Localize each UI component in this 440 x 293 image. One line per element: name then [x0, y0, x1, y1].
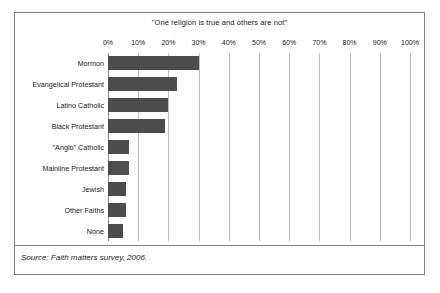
x-axis-tick-labels: 0%10%20%30%40%50%60%70%80%90%100%	[108, 39, 410, 51]
x-tick-label: 80%	[343, 39, 357, 46]
y-tick-label: Mormon	[15, 59, 104, 68]
gridline-40	[229, 53, 230, 241]
bar	[108, 182, 126, 196]
y-tick-label: Other Faiths	[15, 205, 104, 214]
x-tick-label: 70%	[312, 39, 326, 46]
bar	[108, 140, 129, 154]
gridline-70	[319, 53, 320, 241]
x-tick-label: 40%	[222, 39, 236, 46]
bar	[108, 77, 177, 91]
gridline-60	[289, 53, 290, 241]
bar	[108, 56, 199, 70]
y-tick-label: Evangelical Protestant	[15, 80, 104, 89]
x-tick-label: 50%	[252, 39, 266, 46]
bar	[108, 98, 168, 112]
y-tick-label: Jewish	[15, 184, 104, 193]
y-tick-label: Latino Catholic	[15, 101, 104, 110]
bar	[108, 161, 129, 175]
chart-figure: "One religion is true and others are not…	[14, 12, 425, 275]
y-tick-label: Black Protestant	[15, 122, 104, 131]
bar	[108, 224, 123, 238]
gridline-50	[259, 53, 260, 241]
x-tick-label: 90%	[373, 39, 387, 46]
y-tick-label: None	[15, 226, 104, 235]
x-tick-label: 30%	[192, 39, 206, 46]
x-tick-label: 0%	[103, 39, 113, 46]
y-tick-label: "Anglo" Catholic	[15, 143, 104, 152]
y-axis-category-labels: MormonEvangelical ProtestantLatino Catho…	[15, 53, 104, 241]
bar	[108, 119, 165, 133]
y-tick-label: Mainline Protestant	[15, 163, 104, 172]
gridline-30	[199, 53, 200, 241]
source-note: Source: Faith matters survey, 2006.	[21, 253, 147, 262]
plot-area	[108, 53, 410, 241]
x-tick-label: 60%	[282, 39, 296, 46]
chart-title: "One religion is true and others are not…	[15, 18, 424, 27]
footer-divider	[15, 245, 424, 246]
x-tick-label: 100%	[401, 39, 419, 46]
x-tick-label: 10%	[131, 39, 145, 46]
gridline-100	[410, 53, 411, 241]
gridline-80	[350, 53, 351, 241]
gridline-90	[380, 53, 381, 241]
bar	[108, 203, 126, 217]
x-tick-label: 20%	[161, 39, 175, 46]
